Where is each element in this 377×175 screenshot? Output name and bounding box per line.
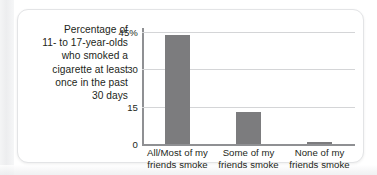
caption-line: once in the past (28, 76, 128, 89)
y-axis-tick-label: 45% (118, 27, 138, 38)
x-axis-category-line: Some of my (218, 147, 278, 159)
bar (307, 142, 332, 144)
x-axis-category-line: All/Most of my (147, 147, 208, 159)
bar (165, 35, 190, 145)
y-axis-spine (142, 28, 144, 144)
x-axis-category-label: Some of myfriends smoke (218, 147, 278, 170)
chart-caption: Percentage of 11- to 17-year-olds who sm… (28, 23, 128, 102)
x-axis-category-label: All/Most of myfriends smoke (147, 147, 208, 170)
caption-line: Percentage of (28, 23, 128, 36)
x-axis-labels: All/Most of myfriends smokeSome of myfri… (142, 147, 355, 173)
caption-line: 30 days (28, 89, 128, 102)
caption-line: cigarette at least (28, 63, 128, 76)
x-axis-category-line: friends smoke (147, 159, 208, 171)
bar (236, 112, 261, 144)
x-axis-category-line: friends smoke (289, 159, 349, 171)
caption-line: who smoked a (28, 49, 128, 62)
page-edge-shadow (0, 0, 14, 175)
y-axis-tick-label: 15 (127, 101, 138, 112)
y-axis-tick-label: 30 (127, 64, 138, 75)
x-axis-category-line: friends smoke (218, 159, 278, 171)
figure-card: Percentage of 11- to 17-year-olds who sm… (17, 9, 364, 163)
x-axis-category-line: None of my (289, 147, 349, 159)
x-axis-category-label: None of myfriends smoke (289, 147, 349, 170)
caption-line: 11- to 17-year-olds (28, 36, 128, 49)
gridline (142, 144, 355, 146)
chart-plot-area: 0153045% (142, 32, 355, 144)
gridline (142, 32, 355, 33)
y-axis-tick-label: 0 (133, 139, 138, 150)
